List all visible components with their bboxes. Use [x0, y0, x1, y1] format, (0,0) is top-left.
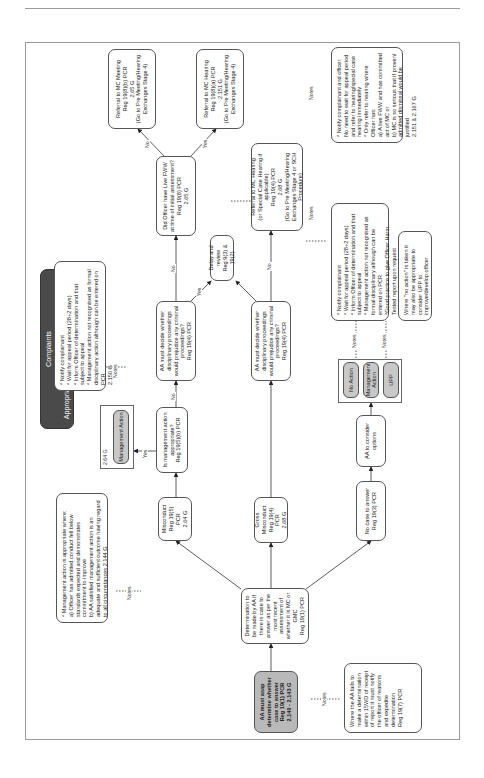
misconduct-box: Misconduct Reg 19(5) PCR 2.64 G	[158, 497, 192, 541]
delay-review-box: Delay and review Reg 9(3) & 19(2)	[210, 235, 234, 281]
mc-hearing-fww-note: * Notify complainant and officer. No nee…	[331, 47, 403, 143]
start-note: Where the AA fails to make a determinati…	[344, 663, 422, 733]
option-no-action: No Action	[343, 362, 359, 398]
determination-box: Determination to be made by AA if there …	[241, 588, 309, 644]
upp-note: Where "no action" is taken it may also b…	[398, 231, 432, 321]
page-top-rule	[25, 8, 460, 9]
no-case-box: No case to answer Reg 19(3) PCR	[356, 481, 386, 541]
mc-hearing-fww-box: Referral to MC Hearing Reg 19(8)(a) PCR …	[196, 49, 244, 129]
management-action-group: 2.64 G Management Action	[100, 405, 134, 469]
no-label: No	[170, 264, 176, 273]
notes-label: Notes	[126, 585, 132, 601]
flowchart-canvas: Complaints (PRA Matter) Appropriate Auth…	[26, 43, 460, 740]
notes-label: Notes	[308, 85, 314, 101]
options-note: * Notify complainant * Wait for appeal p…	[331, 203, 389, 321]
live-fww-box: Did Officer have Live FWW at time of ini…	[156, 156, 196, 236]
no-label: No	[266, 262, 272, 271]
title-line-1: Complaints	[44, 331, 53, 367]
flowchart-frame: Complaints (PRA Matter) Appropriate Auth…	[25, 42, 460, 740]
notes-label: Notes	[351, 333, 357, 349]
management-action-pill: Management Action	[113, 410, 129, 464]
option-upp: UPP	[383, 362, 399, 398]
management-action-ref: 2.64 G	[102, 448, 108, 466]
prejudice-check-misconduct-box: AA must decide whether disciplinary proc…	[156, 301, 196, 381]
management-action-note: * Notify complainant * Wait for appeal p…	[54, 261, 106, 391]
yes-label: Yes	[202, 139, 208, 149]
option-management-action: Management Action	[363, 362, 379, 398]
notes-label: Notes	[321, 691, 327, 707]
management-criteria-note: * Management action is appropriate where…	[56, 493, 108, 623]
notes-label: Notes	[381, 333, 387, 349]
gross-misconduct-box: Gross Misconduct Reg 19(4) PCR 2.68 G	[254, 497, 288, 543]
yes-label: Yes	[142, 449, 148, 459]
no-label: No	[170, 392, 176, 401]
mc-meeting-box: Referral to MC Meeting Reg 19(8)(b) PCR …	[108, 49, 156, 129]
start-box: AA must asap determine whether case to a…	[254, 671, 298, 733]
yes-label: Yes	[196, 287, 202, 297]
prejudice-check-gross-box: AA must decide whether disciplinary proc…	[251, 301, 291, 381]
options-group: No Action Management Action UPP	[338, 359, 402, 403]
no-label: No	[144, 140, 150, 149]
notes-label: Notes	[308, 205, 314, 221]
consider-options-box: AA to consider options	[356, 415, 386, 467]
gmc-hearing-box: Referral to MC Hearing (or Special Case …	[251, 143, 303, 231]
is-management-appropriate-box: Is management action appropriate? Reg 19…	[156, 407, 188, 473]
